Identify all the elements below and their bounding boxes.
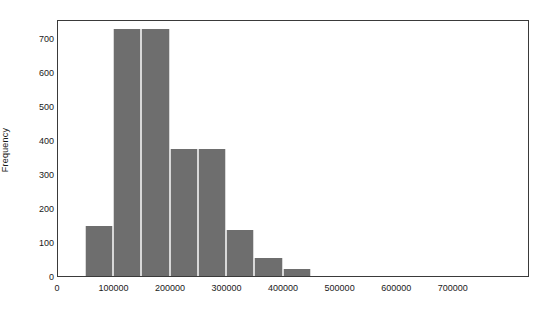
- histogram-bar: [141, 29, 169, 276]
- y-tick-label: 700: [20, 34, 54, 44]
- histogram-bar: [283, 269, 311, 276]
- histogram-figure: Frequency 0100200300400500600700 0100000…: [0, 0, 547, 311]
- x-tick-label: 700000: [438, 283, 468, 293]
- y-tick-label: 200: [20, 204, 54, 214]
- y-tick-label: 100: [20, 238, 54, 248]
- y-tick-label: 600: [20, 68, 54, 78]
- histogram-bar: [254, 258, 282, 276]
- histogram-bar: [226, 230, 254, 276]
- y-tick-label: 300: [20, 170, 54, 180]
- histogram-bar: [85, 226, 113, 276]
- y-axis-title: Frequency: [0, 105, 10, 195]
- x-tick-label: 100000: [98, 283, 128, 293]
- x-tick-label: 500000: [325, 283, 355, 293]
- histogram-bar: [198, 149, 226, 276]
- histogram-bar: [113, 29, 141, 276]
- y-tick-label: 0: [20, 272, 54, 282]
- plot-area: [57, 20, 529, 277]
- x-tick-label: 600000: [381, 283, 411, 293]
- x-tick-label: 200000: [155, 283, 185, 293]
- x-tick-label: 400000: [268, 283, 298, 293]
- y-tick-label: 400: [20, 136, 54, 146]
- y-tick-label: 500: [20, 102, 54, 112]
- histogram-bar: [170, 149, 198, 276]
- y-axis-tick-labels: 0100200300400500600700: [16, 0, 54, 311]
- x-tick-label: 300000: [212, 283, 242, 293]
- x-tick-label: 0: [54, 283, 59, 293]
- x-axis-tick-labels: 0100000200000300000400000500000600000700…: [0, 283, 547, 301]
